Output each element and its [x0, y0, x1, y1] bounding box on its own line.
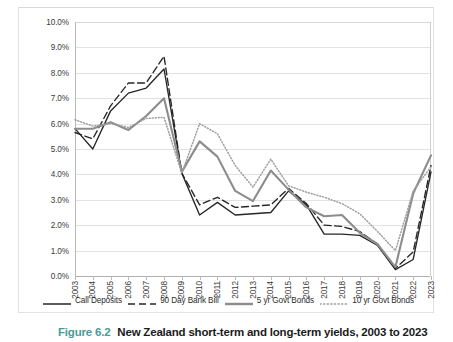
x-tick-label: 2023	[427, 281, 436, 299]
series-layer	[75, 22, 431, 276]
x-tick	[128, 276, 129, 280]
x-tick	[111, 276, 112, 280]
x-tick	[413, 276, 414, 280]
figure-card: 0.0%1.0%2.0%3.0%4.0%5.0%6.0%7.0%8.0%9.0%…	[18, 7, 434, 313]
y-tick-label: 8.0%	[51, 68, 69, 77]
x-tick	[395, 276, 396, 280]
x-tick	[360, 276, 361, 280]
x-tick	[324, 276, 325, 280]
legend-item-90-day-bank-bill[interactable]: 90 Day Bank Bill	[128, 295, 218, 305]
x-tick	[306, 276, 307, 280]
series-line-5-yr-govt-bonds	[75, 98, 431, 267]
series-line-10-yr-govt-bonds	[75, 117, 431, 250]
legend-item-10-yr-govt-bonds[interactable]: 10 yr Govt Bonds	[320, 295, 414, 305]
x-tick	[342, 276, 343, 280]
x-tick	[182, 276, 183, 280]
x-tick	[253, 276, 254, 280]
y-tick-label: 10.0%	[46, 18, 69, 27]
x-tick	[378, 276, 379, 280]
legend-item-call-deposits[interactable]: Call Deposits	[43, 295, 122, 305]
figure-caption: Figure 6.2 New Zealand short-term and lo…	[58, 326, 453, 338]
y-tick-label: 2.0%	[51, 221, 69, 230]
x-tick	[164, 276, 165, 280]
y-axis: 0.0%1.0%2.0%3.0%4.0%5.0%6.0%7.0%8.0%9.0%…	[19, 22, 73, 276]
legend-label: 5 yr Govt Bonds	[257, 296, 314, 305]
line-chart: 0.0%1.0%2.0%3.0%4.0%5.0%6.0%7.0%8.0%9.0%…	[19, 8, 435, 314]
figure-page: 0.0%1.0%2.0%3.0%4.0%5.0%6.0%7.0%8.0%9.0%…	[0, 0, 453, 342]
line-dotted-gray-icon	[320, 295, 348, 305]
legend-label: Call Deposits	[75, 296, 122, 305]
y-tick-label: 0.0%	[51, 272, 69, 281]
y-tick-label: 3.0%	[51, 195, 69, 204]
line-solid-gray-icon	[225, 295, 253, 305]
y-tick-label: 4.0%	[51, 170, 69, 179]
legend-label: 90 Day Bank Bill	[160, 296, 218, 305]
x-tick	[75, 276, 76, 280]
chart-legend: Call Deposits90 Day Bank Bill5 yr Govt B…	[41, 291, 416, 309]
x-tick	[431, 276, 432, 280]
x-tick	[289, 276, 290, 280]
x-tick	[146, 276, 147, 280]
caption-title: New Zealand short-term and long-term yie…	[117, 326, 427, 338]
caption-number: Figure 6.2	[58, 326, 110, 338]
series-line-90-day-bank-bill	[75, 56, 431, 268]
x-tick	[235, 276, 236, 280]
line-dashed-black-icon	[128, 295, 156, 305]
line-solid-black-icon	[43, 295, 71, 305]
x-tick	[93, 276, 94, 280]
x-tick	[200, 276, 201, 280]
y-tick-label: 9.0%	[51, 43, 69, 52]
series-line-call-deposits	[75, 69, 431, 270]
y-tick-label: 6.0%	[51, 119, 69, 128]
y-tick-label: 5.0%	[51, 145, 69, 154]
legend-label: 10 yr Govt Bonds	[352, 296, 414, 305]
x-tick	[217, 276, 218, 280]
y-tick-label: 7.0%	[51, 94, 69, 103]
x-tick	[271, 276, 272, 280]
y-tick-label: 1.0%	[51, 246, 69, 255]
legend-item-5-yr-govt-bonds[interactable]: 5 yr Govt Bonds	[225, 295, 314, 305]
